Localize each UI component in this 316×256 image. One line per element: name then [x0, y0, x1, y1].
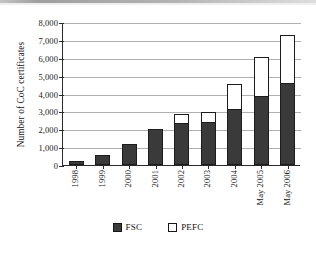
y-axis-title: Number of CoC certificates	[14, 23, 28, 166]
bar-slot	[63, 22, 89, 165]
stacked-bar[interactable]	[174, 114, 189, 165]
stacked-bar[interactable]	[201, 112, 216, 165]
bar-slot	[275, 22, 301, 165]
y-axis-tick-label: 8,000	[38, 18, 58, 28]
stacked-bar[interactable]	[227, 84, 242, 165]
stacked-bar[interactable]	[280, 35, 295, 165]
legend-swatch-pefc	[168, 223, 177, 232]
bar-slot	[142, 22, 168, 165]
y-axis-tick-label: 5,000	[38, 72, 58, 82]
stacked-bar[interactable]	[254, 57, 269, 165]
x-label-slot: May 2006	[274, 170, 300, 216]
x-axis-tick	[156, 165, 157, 169]
x-label-slot: 2003	[194, 170, 220, 216]
y-axis-tick-label: 7,000	[38, 36, 58, 46]
x-label-slot: 1999	[88, 170, 114, 216]
legend-item-fsc: FSC	[113, 222, 143, 232]
x-label-slot: 2000	[115, 170, 141, 216]
x-axis-tick	[208, 165, 209, 169]
bar-segment-pefc[interactable]	[280, 35, 295, 82]
x-label-slot: 2002	[168, 170, 194, 216]
bar-slot	[222, 22, 248, 165]
bar-segment-fsc[interactable]	[254, 96, 269, 165]
legend-label-fsc: FSC	[126, 222, 143, 232]
y-axis-tick	[59, 166, 64, 167]
bar-slot	[169, 22, 195, 165]
plot-area: 8,0007,0006,0005,0004,0003,0002,0001,000…	[62, 23, 300, 166]
x-axis-tick	[103, 165, 104, 169]
y-axis-tick-label: 3,000	[38, 107, 58, 117]
x-axis-tick	[288, 165, 289, 169]
bar-segment-fsc[interactable]	[174, 123, 189, 165]
y-axis-tick-label: 6,000	[38, 54, 58, 64]
bar-segment-fsc[interactable]	[122, 144, 137, 165]
y-axis-tick-label: 2,000	[38, 125, 58, 135]
x-axis-tick	[76, 165, 77, 169]
x-label-slot: 2004	[221, 170, 247, 216]
x-axis-tick-label: 2002	[176, 170, 186, 187]
chart-legend: FSC PEFC	[0, 222, 316, 232]
x-axis-tick	[129, 165, 130, 169]
stacked-bar[interactable]	[95, 155, 110, 165]
bar-slot	[195, 22, 221, 165]
x-axis-tick-label: 1998	[70, 170, 80, 187]
x-label-slot: 1998	[62, 170, 88, 216]
bar-segment-fsc[interactable]	[227, 109, 242, 165]
legend-swatch-fsc	[113, 223, 122, 232]
y-axis-tick-label: 0	[54, 161, 58, 171]
x-axis-tick	[235, 165, 236, 169]
x-axis-tick-label: 2003	[202, 170, 212, 187]
x-axis-tick-label: 1999	[97, 170, 107, 187]
bar-slot	[89, 22, 115, 165]
y-axis-tick-label: 4,000	[38, 90, 58, 100]
bar-segment-pefc[interactable]	[227, 84, 242, 109]
legend-item-pefc: PEFC	[168, 222, 203, 232]
x-label-slot: 2001	[141, 170, 167, 216]
legend-label-pefc: PEFC	[181, 222, 203, 232]
chart-figure: Number of CoC certificates 8,0007,0006,0…	[0, 0, 316, 256]
bar-segment-pefc[interactable]	[254, 57, 269, 95]
x-label-slot: May 2005	[247, 170, 273, 216]
bar-slot	[116, 22, 142, 165]
bar-segment-pefc[interactable]	[201, 112, 216, 123]
x-axis-tick	[261, 165, 262, 169]
x-axis-tick-label: May 2005	[255, 170, 265, 206]
x-axis-labels: 1998199920002001200220032004May 2005May …	[62, 170, 300, 216]
bar-segment-fsc[interactable]	[148, 129, 163, 165]
y-axis-tick-label: 1,000	[38, 143, 58, 153]
bar-segment-fsc[interactable]	[95, 155, 110, 165]
bar-series-group	[63, 22, 301, 165]
scan-artifact-band-light	[0, 3, 316, 5]
bar-segment-pefc[interactable]	[174, 114, 189, 123]
x-axis-tick	[182, 165, 183, 169]
bar-segment-fsc[interactable]	[280, 83, 295, 165]
x-axis-tick-label: 2000	[123, 170, 133, 187]
x-axis-tick-label: 2004	[229, 170, 239, 187]
x-axis-tick-label: May 2006	[282, 170, 292, 206]
bar-slot	[248, 22, 274, 165]
stacked-bar[interactable]	[122, 144, 137, 165]
stacked-bar[interactable]	[148, 129, 163, 165]
x-axis-tick-label: 2001	[150, 170, 160, 187]
bar-segment-fsc[interactable]	[201, 122, 216, 165]
